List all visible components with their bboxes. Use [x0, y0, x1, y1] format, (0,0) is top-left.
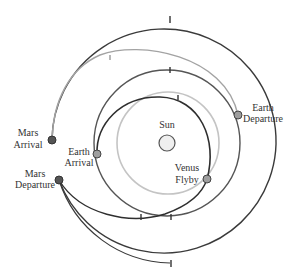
earth-arrival-label-line2: Arrival	[65, 157, 94, 168]
mars-arrival-node	[48, 136, 56, 144]
venus-flyby-label-line1: Venus	[175, 162, 200, 173]
venus-flyby-node	[203, 175, 211, 183]
mars-departure-node	[55, 176, 63, 184]
mars-departure-label-line1: Mars	[25, 168, 46, 179]
earth-departure-label-line1: Earth	[252, 102, 274, 113]
venus-flyby-label-line2: Flyby	[175, 174, 198, 185]
earth-arrival-node	[93, 150, 101, 158]
orbit-diagram: Sun Earth Departure Mars Arrival Earth A…	[0, 0, 300, 277]
mars-departure-label-line2: Departure	[15, 179, 56, 190]
outbound-transfer-arc	[52, 50, 238, 140]
mars-arrival-label-line2: Arrival	[14, 139, 43, 150]
earth-arrival-label-line1: Earth	[68, 146, 90, 157]
sun-icon	[159, 135, 175, 151]
mars-arrival-label-line1: Mars	[18, 127, 39, 138]
sun-label: Sun	[159, 119, 175, 130]
earth-departure-node	[234, 111, 242, 119]
earth-departure-label-line2: Departure	[243, 113, 284, 124]
